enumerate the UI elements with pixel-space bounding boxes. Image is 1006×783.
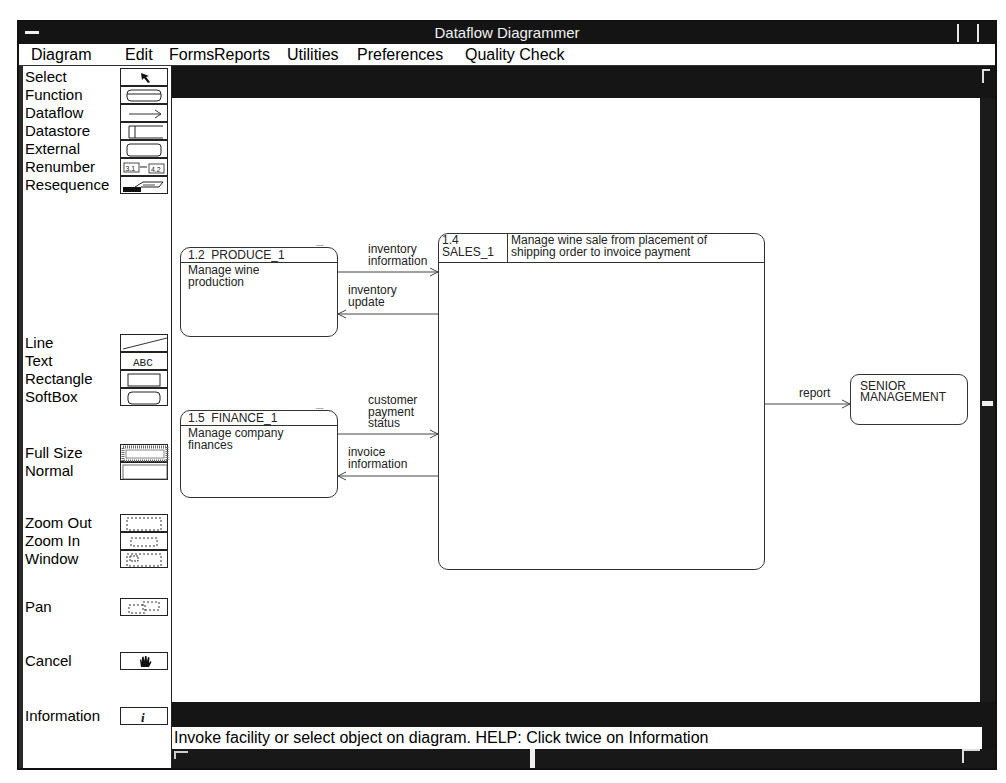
title-bar: Dataflow Diagrammer xyxy=(19,22,995,44)
tool-renumber-button[interactable]: 3.1 4.2 xyxy=(120,158,168,176)
resize-corner-bottom-right xyxy=(962,749,980,763)
tool-resequence[interactable]: Resequence xyxy=(23,176,172,194)
tool-dataflow[interactable]: Dataflow xyxy=(23,104,172,122)
horizontal-scrollbar[interactable] xyxy=(172,749,995,768)
tool-text[interactable]: Text ABC xyxy=(23,352,172,370)
vertical-scrollbar[interactable] xyxy=(980,98,995,702)
maximize-button[interactable] xyxy=(977,24,979,42)
menu-edit[interactable]: Edit xyxy=(125,46,153,64)
tool-rectangle[interactable]: Rectangle xyxy=(23,370,172,388)
zoom-window-icon xyxy=(121,551,169,569)
tool-label: Information xyxy=(25,707,100,725)
menu-preferences[interactable]: Preferences xyxy=(357,46,443,64)
tool-information-button[interactable]: i xyxy=(120,707,168,725)
rectangle-icon xyxy=(121,371,169,389)
flow-label-customer-payment-status[interactable]: customer payment status xyxy=(368,395,417,430)
tool-external[interactable]: External xyxy=(23,140,172,158)
full-size-icon xyxy=(121,445,169,463)
tool-label: Zoom Out xyxy=(25,514,92,532)
tool-label: Renumber xyxy=(25,158,95,176)
tool-label: Cancel xyxy=(25,652,72,670)
tool-zoom-out-button[interactable] xyxy=(120,514,168,532)
tool-resequence-button[interactable] xyxy=(120,176,168,194)
canvas-top-band xyxy=(172,66,995,98)
tool-label: Text xyxy=(25,352,53,370)
more-dots-icon: ..... xyxy=(315,238,323,248)
process-finance[interactable]: ..... 1.5 FINANCE_1 Manage company finan… xyxy=(180,410,338,498)
flow-label-invoice-information[interactable]: invoice information xyxy=(348,447,407,470)
tool-softbox[interactable]: SoftBox xyxy=(23,388,172,406)
hand-stop-icon xyxy=(121,653,169,671)
tool-window[interactable]: Window xyxy=(23,550,172,568)
tool-information[interactable]: Information i xyxy=(23,707,172,725)
tool-zoom-in[interactable]: Zoom In xyxy=(23,532,172,550)
right-arrow-icon xyxy=(121,105,169,123)
tool-label: External xyxy=(25,140,80,158)
process-description: Manage company finances xyxy=(188,427,283,451)
tool-normal[interactable]: Normal xyxy=(23,462,172,480)
more-dots-icon: ..... xyxy=(315,401,323,411)
tool-window-button[interactable] xyxy=(120,550,168,568)
tool-text-button[interactable]: ABC xyxy=(120,352,168,370)
tool-dataflow-button[interactable] xyxy=(120,104,168,122)
tool-external-button[interactable] xyxy=(120,140,168,158)
menu-diagram[interactable]: Diagram xyxy=(31,46,91,64)
tool-zoom-out[interactable]: Zoom Out xyxy=(23,514,172,532)
flow-label-report[interactable]: report xyxy=(799,388,830,400)
status-message: Invoke facility or select object on diag… xyxy=(172,727,982,749)
header-divider xyxy=(507,234,508,262)
tool-function-button[interactable] xyxy=(120,86,168,104)
flow-label-inventory-information[interactable]: inventory information xyxy=(368,244,427,267)
menu-utilities[interactable]: Utilities xyxy=(287,46,339,64)
process-header: 1.4 SALES_1 Manage wine sale from placem… xyxy=(439,234,764,263)
tool-full-size[interactable]: Full Size xyxy=(23,444,172,462)
tool-datastore-button[interactable] xyxy=(120,122,168,140)
process-produce[interactable]: ..... 1.2 PRODUCE_1 Manage wine producti… xyxy=(180,247,338,337)
external-senior-management[interactable]: SENIOR MANAGEMENT xyxy=(850,374,968,425)
tool-label: Resequence xyxy=(25,176,109,194)
svg-text:ABC: ABC xyxy=(133,357,153,369)
tool-label: Normal xyxy=(25,462,73,480)
tool-datastore[interactable]: Datastore xyxy=(23,122,172,140)
tool-pan-button[interactable] xyxy=(120,598,168,616)
info-icon: i xyxy=(121,708,169,726)
tool-rectangle-button[interactable] xyxy=(120,370,168,388)
process-sales[interactable]: 1.4 SALES_1 Manage wine sale from placem… xyxy=(438,233,765,570)
renumber-icon: 3.1 4.2 xyxy=(121,159,169,177)
vertical-scroll-thumb[interactable] xyxy=(982,401,993,406)
status-right-edge xyxy=(982,727,995,749)
tool-label: Dataflow xyxy=(25,104,83,122)
process-header: 1.5 FINANCE_1 xyxy=(181,411,337,426)
flow-label-inventory-update[interactable]: inventory update xyxy=(348,285,397,308)
tool-normal-button[interactable] xyxy=(120,462,168,480)
svg-text:3.1: 3.1 xyxy=(126,165,136,172)
tool-label: Window xyxy=(25,550,78,568)
tool-select-button[interactable] xyxy=(120,68,168,86)
softbox-icon xyxy=(121,389,169,407)
resize-corner-top-right xyxy=(982,69,990,83)
canvas-bottom-band xyxy=(172,702,995,727)
tool-cancel[interactable]: Cancel xyxy=(23,652,172,670)
rounded-box-icon xyxy=(121,87,169,105)
tool-line-button[interactable] xyxy=(120,334,168,352)
tool-pan[interactable]: Pan xyxy=(23,598,172,616)
menu-quality-check[interactable]: Quality Check xyxy=(465,46,565,64)
minimize-button[interactable] xyxy=(957,24,959,42)
tool-softbox-button[interactable] xyxy=(120,388,168,406)
tool-zoom-in-button[interactable] xyxy=(120,532,168,550)
diagram-canvas[interactable]: ..... 1.2 PRODUCE_1 Manage wine producti… xyxy=(172,98,980,702)
tool-select[interactable]: Select xyxy=(23,68,172,86)
tool-full-size-button[interactable] xyxy=(120,444,168,462)
horizontal-scroll-thumb[interactable] xyxy=(530,749,535,768)
process-id: 1.2 xyxy=(188,248,205,262)
tool-renumber[interactable]: Renumber 3.1 4.2 xyxy=(23,158,172,176)
process-header: 1.2 PRODUCE_1 xyxy=(181,248,337,263)
open-box-icon xyxy=(121,123,169,141)
tool-function[interactable]: Function xyxy=(23,86,172,104)
tool-cancel-button[interactable] xyxy=(120,652,168,670)
menu-reports[interactable]: Reports xyxy=(214,46,270,64)
tool-label: Datastore xyxy=(25,122,90,140)
diagonal-line-icon xyxy=(121,335,169,353)
tool-line[interactable]: Line xyxy=(23,334,172,352)
menu-forms[interactable]: Forms xyxy=(169,46,214,64)
